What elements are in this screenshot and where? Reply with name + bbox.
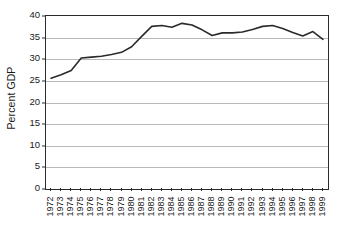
x-axis-tick-label-text: 1992	[247, 196, 256, 216]
y-axis-tick-label: 40	[29, 10, 40, 20]
x-axis-tick-label-text: 1983	[156, 196, 165, 216]
x-axis-tick-label-text: 1989	[217, 196, 226, 216]
x-axis-tick-label-text: 1988	[207, 196, 216, 216]
x-axis-tick-label-text: 1998	[307, 196, 316, 216]
data-line	[51, 23, 323, 78]
x-axis-tick-label-text: 1981	[136, 196, 145, 216]
x-axis-tick-label-text: 1976	[86, 196, 95, 216]
x-axis-tick-label-text: 1987	[197, 196, 206, 216]
y-axis-tick-label: 30	[29, 54, 40, 64]
x-axis-tick-label-text: 1984	[166, 196, 175, 216]
x-axis-tick-label-text: 1996	[287, 196, 296, 216]
y-axis-tick-label: 5	[35, 162, 40, 172]
y-axis-tick-label: 10	[29, 140, 40, 150]
x-axis-tick-label-text: 1985	[176, 196, 185, 216]
x-axis-tick-label-text: 1995	[277, 196, 286, 216]
series-line-percent-gdp	[46, 16, 328, 189]
x-axis-tick-label-text: 1982	[146, 196, 155, 216]
x-axis-tick-label-text: 1999	[317, 196, 326, 216]
y-axis-tick-label: 15	[29, 118, 40, 128]
x-axis-tick-label: 1999	[316, 190, 327, 230]
y-axis-title: Percent GDP	[0, 0, 22, 195]
x-axis-tick-label-text: 1973	[56, 196, 65, 216]
x-axis-tick-label-text: 1994	[267, 196, 276, 216]
x-axis-tick-label-text: 1980	[126, 196, 135, 216]
x-axis-tick-labels: 1972197319741975197619771978197919801981…	[45, 190, 327, 233]
x-axis-tick-label-text: 1986	[187, 196, 196, 216]
x-axis-tick-label-text: 1978	[106, 196, 115, 216]
y-axis-tick-label: 35	[29, 32, 40, 42]
y-axis-tick-labels: 0510152025303540	[22, 9, 42, 193]
x-axis-tick-label-text: 1997	[297, 196, 306, 216]
x-axis-tick-label-text: 1975	[76, 196, 85, 216]
x-axis-tick-label-text: 1972	[46, 196, 55, 216]
y-axis-tick-label: 0	[35, 183, 40, 193]
x-axis-tick-label-text: 1974	[66, 196, 75, 216]
y-axis-tick-label: 25	[29, 75, 40, 85]
x-axis-tick-label-text: 1993	[257, 196, 266, 216]
y-axis-tick-label: 20	[29, 97, 40, 107]
line-chart: Percent GDP 0510152025303540 19721973197…	[0, 0, 350, 233]
y-axis-title-label: Percent GDP	[5, 66, 17, 129]
x-axis-tick-label-text: 1979	[116, 196, 125, 216]
x-axis-tick-label-text: 1990	[227, 196, 236, 216]
plot-area	[45, 15, 329, 190]
